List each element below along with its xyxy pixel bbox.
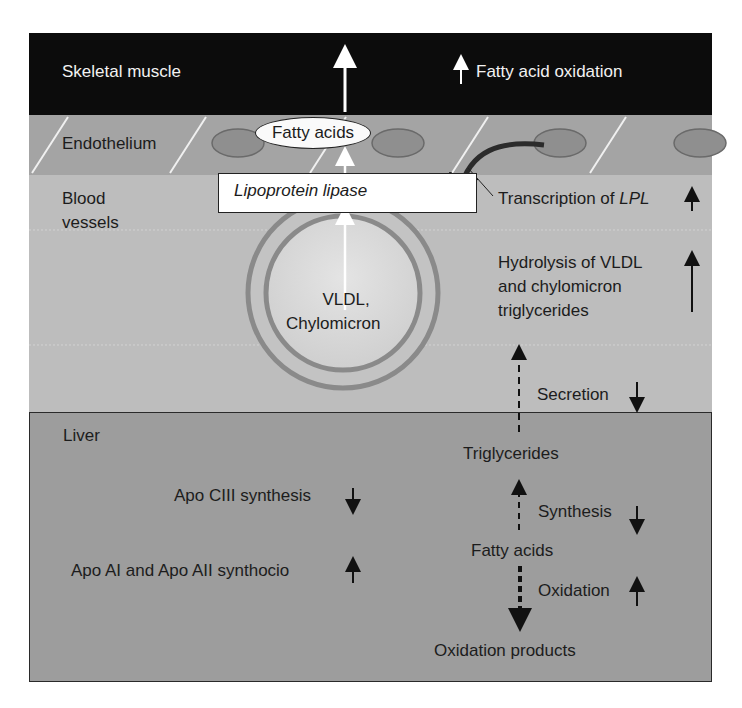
synthesis-label: Synthesis — [538, 502, 612, 522]
lipoprotein-lipase-box: Lipoprotein lipase — [218, 173, 477, 213]
lipoprotein-lipase-label: Lipoprotein lipase — [234, 181, 367, 201]
blood-vessels-label-line2: vessels — [62, 213, 119, 233]
fatty-acid-oxidation-label: Fatty acid oxidation — [476, 62, 622, 82]
hydrolysis-label-line3: triglycerides — [498, 301, 589, 321]
oxidation-products-label: Oxidation products — [434, 641, 576, 661]
blood-vessels-label-line1: Blood — [62, 189, 105, 209]
lpl-gene: LPL — [619, 189, 649, 208]
vldl-label: VLDL, — [306, 290, 386, 310]
skeletal-muscle-label: Skeletal muscle — [62, 62, 181, 82]
liver-triglycerides-label: Triglycerides — [463, 444, 559, 464]
liver-label: Liver — [63, 426, 100, 446]
apo-c3-synthesis-label: Apo CIII synthesis — [174, 486, 311, 506]
transcription-lpl-label: Transcription of LPL — [498, 189, 650, 209]
secretion-label: Secretion — [537, 385, 609, 405]
diagram-graphics — [0, 0, 742, 708]
oxidation-label: Oxidation — [538, 581, 610, 601]
endothelium-label: Endothelium — [62, 134, 157, 154]
transcription-prefix: Transcription of — [498, 189, 619, 208]
chylomicron-label: Chylomicron — [286, 314, 380, 334]
liver-fatty-acids-label: Fatty acids — [471, 541, 553, 561]
hydrolysis-label-line1: Hydrolysis of VLDL — [498, 253, 643, 273]
hydrolysis-label-line2: and chylomicron — [498, 277, 622, 297]
apo-a-synthesis-label: Apo AI and Apo AII synthocio — [71, 561, 289, 581]
fatty-acids-oval: Fatty acids — [255, 117, 371, 149]
